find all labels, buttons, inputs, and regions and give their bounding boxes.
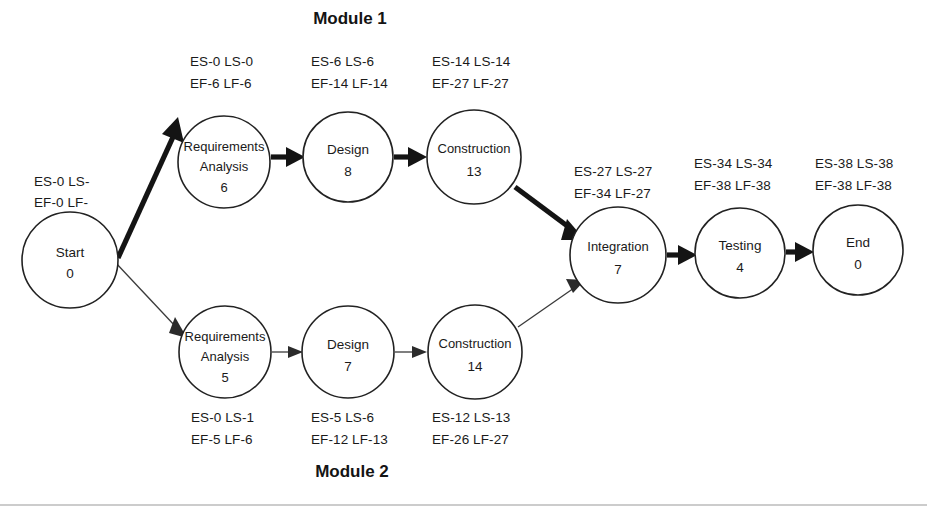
node-design-1[interactable]: Design 8 ES-6 LS-6 EF-14 LF-14 (303, 54, 393, 202)
edge-start-to-requirements-analysis-1 (118, 117, 184, 258)
node-requirements-analysis-2-label-line1: Requirements (185, 329, 266, 344)
node-end-circle[interactable] (813, 205, 903, 295)
node-start-duration: 0 (66, 266, 74, 281)
node-requirements-analysis-2[interactable]: Requirements Analysis 5 ES-0 LS-1 EF-5 L… (179, 306, 271, 447)
node-start-ef-lf-label: EF-0 LF- (34, 195, 88, 210)
node-construction-2-circle[interactable] (428, 305, 522, 399)
node-construction-2-label: Construction (439, 336, 512, 351)
node-design-1-label: Design (327, 142, 369, 157)
module-title-bottom: Module 2 (315, 462, 389, 481)
edge-requirements-analysis-1-to-design-1 (271, 147, 305, 167)
node-integration-duration: 7 (614, 262, 622, 277)
pert-network-diagram: Module 1 Module 2 (0, 0, 927, 512)
edge-integration-to-testing (667, 245, 697, 265)
node-design-2-duration: 7 (344, 359, 352, 374)
node-integration-circle[interactable] (570, 207, 666, 303)
node-integration-ef-lf-label: EF-34 LF-27 (574, 186, 651, 201)
node-start-es-ls-label: ES-0 LS- (34, 174, 90, 189)
node-design-1-circle[interactable] (303, 112, 393, 202)
node-design-2-circle[interactable] (302, 306, 394, 398)
node-construction-1-label: Construction (438, 141, 511, 156)
node-construction-2-ef-lf-label: EF-26 LF-27 (432, 432, 509, 447)
node-requirements-analysis-1-label-line1: Requirements (184, 139, 265, 154)
node-requirements-analysis-1-label-line2: Analysis (200, 159, 249, 174)
node-integration-es-ls-label: ES-27 LS-27 (574, 164, 652, 179)
node-construction-1[interactable]: Construction 13 ES-14 LS-14 EF-27 LF-27 (427, 54, 521, 204)
node-construction-1-ef-lf-label: EF-27 LF-27 (432, 76, 509, 91)
node-design-1-es-ls-label: ES-6 LS-6 (311, 54, 374, 69)
edge-design-1-to-construction-1 (394, 147, 427, 167)
edge-requirements-analysis-2-to-design-2 (272, 346, 303, 358)
node-testing-duration: 4 (736, 260, 744, 275)
node-integration-label: Integration (587, 239, 648, 254)
node-requirements-analysis-2-ef-lf-label: EF-5 LF-6 (191, 432, 253, 447)
edge-testing-to-end (786, 242, 814, 262)
node-integration[interactable]: Integration 7 ES-27 LS-27 EF-34 LF-27 (570, 164, 666, 303)
node-construction-2[interactable]: Construction 14 ES-12 LS-13 EF-26 LF-27 (428, 305, 522, 447)
node-requirements-analysis-2-es-ls-label: ES-0 LS-1 (191, 410, 254, 425)
edge-design-2-to-construction-2 (395, 346, 427, 358)
node-design-1-duration: 8 (344, 164, 352, 179)
network-canvas: Module 1 Module 2 (0, 0, 927, 512)
node-testing-es-ls-label: ES-34 LS-34 (694, 156, 773, 171)
node-requirements-analysis-1-ef-lf-label: EF-6 LF-6 (190, 76, 252, 91)
node-testing-ef-lf-label: EF-38 LF-38 (694, 178, 771, 193)
node-design-2[interactable]: Design 7 ES-5 LS-6 EF-12 LF-13 (302, 306, 394, 447)
edge-construction-2-to-integration (518, 279, 585, 327)
node-construction-2-duration: 14 (467, 359, 483, 374)
node-testing-label: Testing (719, 238, 762, 253)
node-end-es-ls-label: ES-38 LS-38 (815, 156, 893, 171)
node-testing[interactable]: Testing 4 ES-34 LS-34 EF-38 LF-38 (694, 156, 785, 298)
node-end-duration: 0 (854, 257, 862, 272)
node-construction-1-duration: 13 (466, 164, 481, 179)
node-requirements-analysis-1-es-ls-label: ES-0 LS-0 (190, 54, 253, 69)
node-requirements-analysis-1-duration: 6 (220, 180, 227, 195)
node-start-circle[interactable] (22, 212, 118, 308)
node-construction-1-es-ls-label: ES-14 LS-14 (432, 54, 511, 69)
edge-start-to-requirements-analysis-2 (115, 262, 187, 338)
node-design-2-es-ls-label: ES-5 LS-6 (311, 410, 374, 425)
node-end[interactable]: End 0 ES-38 LS-38 EF-38 LF-38 (813, 156, 903, 295)
node-construction-1-circle[interactable] (427, 110, 521, 204)
node-design-2-label: Design (327, 337, 369, 352)
node-design-1-ef-lf-label: EF-14 LF-14 (311, 76, 388, 91)
node-end-ef-lf-label: EF-38 LF-38 (815, 178, 892, 193)
node-start-label: Start (56, 245, 85, 260)
node-requirements-analysis-2-duration: 5 (221, 370, 228, 385)
module-title-top: Module 1 (313, 9, 387, 28)
node-design-2-ef-lf-label: EF-12 LF-13 (311, 432, 388, 447)
node-requirements-analysis-1[interactable]: Requirements Analysis 6 ES-0 LS-0 EF-6 L… (178, 54, 270, 208)
node-testing-circle[interactable] (695, 208, 785, 298)
node-start[interactable]: Start 0 ES-0 LS- EF-0 LF- (22, 174, 118, 308)
node-end-label: End (846, 235, 870, 250)
node-construction-2-es-ls-label: ES-12 LS-13 (432, 410, 510, 425)
node-requirements-analysis-2-label-line2: Analysis (201, 349, 250, 364)
